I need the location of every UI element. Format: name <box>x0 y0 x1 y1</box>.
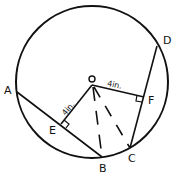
label-d: D <box>163 34 171 47</box>
label-a: A <box>4 84 12 97</box>
label-c: C <box>128 152 136 165</box>
label-b: B <box>99 162 107 175</box>
right-angle-marker-e <box>64 120 69 128</box>
measurement-oe: 4in. <box>60 100 76 117</box>
label-e: E <box>49 124 56 137</box>
label-f: F <box>148 94 154 107</box>
center-point-o <box>89 76 95 82</box>
segment-ob-dashed <box>93 87 102 157</box>
circle-chord-diagram: A B C D E F 4in. 4in. <box>0 0 189 176</box>
